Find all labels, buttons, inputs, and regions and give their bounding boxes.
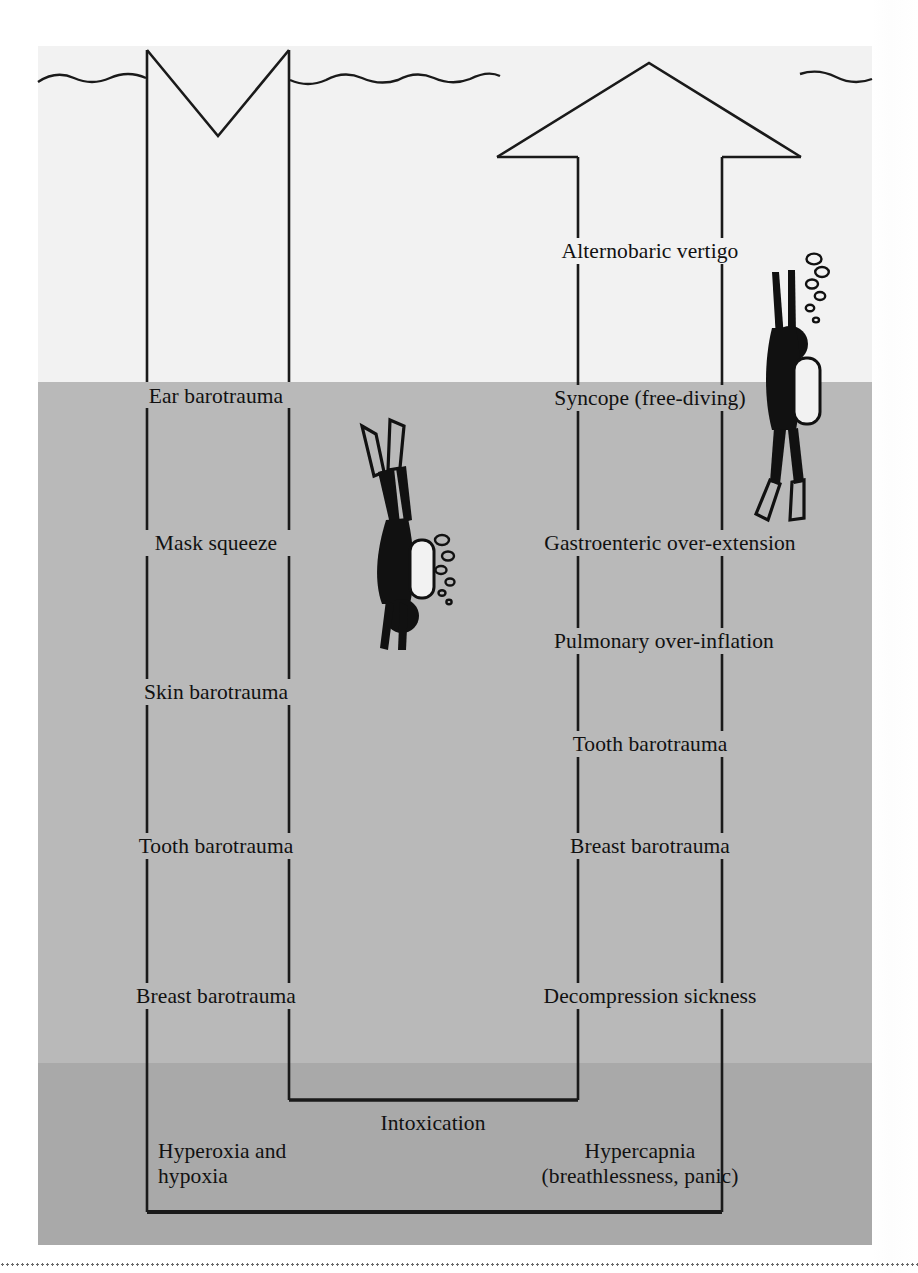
label-gastroenteric-over-extension: Gastroenteric over-extension — [544, 531, 795, 556]
label-syncope-free-diving: Syncope (free-diving) — [554, 386, 745, 411]
label-pulmonary-over-inflation: Pulmonary over-inflation — [554, 629, 774, 654]
label-ear-barotrauma: Ear barotrauma — [149, 384, 284, 409]
label-tooth-barotrauma-descent: Tooth barotrauma — [139, 834, 294, 859]
label-decompression-sickness: Decompression sickness — [544, 984, 757, 1009]
figure-canvas: Ear barotrauma Mask squeeze Skin barotra… — [0, 0, 918, 1273]
label-intoxication: Intoxication — [380, 1111, 485, 1136]
water-surface-line — [38, 72, 872, 84]
page-bottom-dotted-rule — [0, 1263, 918, 1266]
label-alternobaric-vertigo: Alternobaric vertigo — [562, 239, 739, 264]
label-hyperoxia-hypoxia: Hyperoxia and hypoxia — [158, 1139, 286, 1189]
label-mask-squeeze: Mask squeeze — [155, 531, 277, 556]
label-hypercapnia-line2: (breathlessness, panic) — [542, 1164, 739, 1189]
label-breast-barotrauma-descent: Breast barotrauma — [136, 984, 296, 1009]
descending-diver — [362, 420, 455, 650]
label-hypercapnia-line1: Hypercapnia — [542, 1139, 739, 1164]
label-skin-barotrauma: Skin barotrauma — [144, 680, 288, 705]
label-hyperoxia-hypoxia-line1: Hyperoxia and — [158, 1139, 286, 1164]
diagram-lines — [0, 0, 918, 1273]
line-gaps — [143, 238, 726, 1009]
label-hyperoxia-hypoxia-line2: hypoxia — [158, 1164, 286, 1189]
label-hypercapnia: Hypercapnia (breathlessness, panic) — [542, 1139, 739, 1189]
label-breast-barotrauma-ascent: Breast barotrauma — [570, 834, 730, 859]
descent-arrow — [147, 50, 289, 1212]
label-tooth-barotrauma-ascent: Tooth barotrauma — [573, 732, 728, 757]
ascending-diver — [756, 254, 829, 520]
